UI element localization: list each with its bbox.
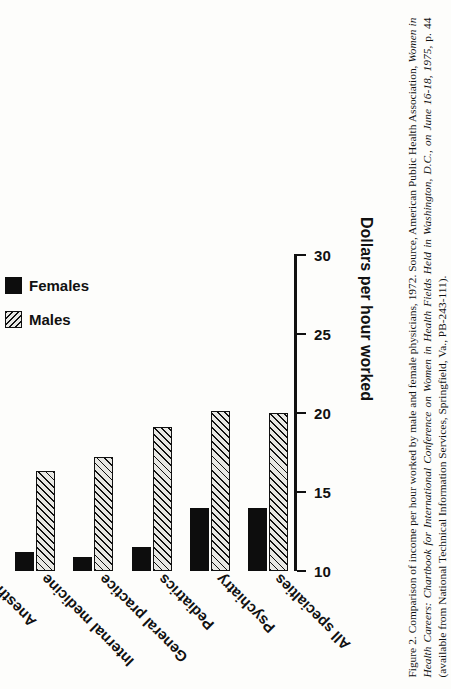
legend-item-females: Females [5,277,89,294]
axis-tick-label: 15 [313,483,330,500]
bar-females [248,507,267,570]
legend-item-males: Males [5,311,71,328]
caption-text: Comparison of income per hour worked by … [406,66,418,634]
category-label: Pediatrics [154,570,217,633]
axis-tick [297,570,306,572]
axis-tick-label: 20 [313,404,330,421]
figure-caption-wrap: Figure 2. Comparison of income per hour … [408,0,448,689]
bar-males [152,427,171,571]
axis-tick [297,254,306,256]
bar-females [189,507,208,570]
category-label: Psychiatry [212,570,278,636]
axis-tick-label: 25 [313,325,330,342]
figure-page: 1015202530 RadiologySurgeryOb/GynAnesthe… [0,0,451,689]
bar-males [269,413,288,571]
axis-tick [297,491,306,493]
caption-label: Figure 2. [406,636,418,677]
chart-stage: 1015202530 RadiologySurgeryOb/GynAnesthe… [0,27,367,663]
legend-swatch [5,277,22,294]
bar-females [73,556,92,570]
axis-tick [297,333,306,335]
category-label: All specialties [270,570,353,653]
axis-tick-label: 10 [313,562,330,579]
axis-tick-label: 30 [313,246,330,263]
bar-females [131,547,150,571]
bar-females [15,552,34,571]
category-label: Anesthes [0,570,39,630]
legend-swatch [5,311,22,328]
legend-label: Males [29,311,71,328]
bar-males [36,471,55,571]
figure-caption: Figure 2. Comparison of income per hour … [405,18,450,678]
bar-males [94,457,113,571]
axis-title: Dollars per hour worked [357,216,375,400]
bar-males [210,411,229,571]
legend-label: Females [29,277,89,294]
chart-region: 1015202530 RadiologySurgeryOb/GynAnesthe… [0,0,396,689]
axis-tick [297,412,306,414]
plot-area: 1015202530 RadiologySurgeryOb/GynAnesthe… [0,47,297,571]
